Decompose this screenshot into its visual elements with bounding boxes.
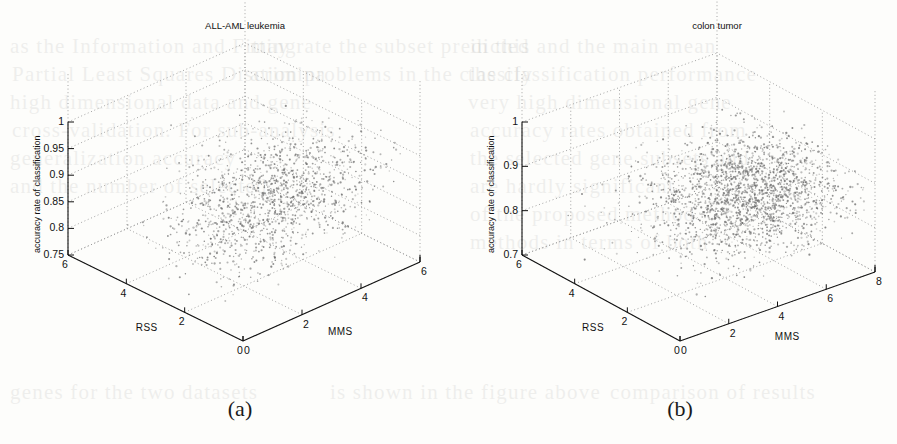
- x-tick-label: 2: [621, 315, 627, 327]
- y-tick-label: 6: [827, 292, 833, 304]
- y-tick-label: 4: [779, 310, 785, 322]
- plot-b-z-axis-label: accuracy rate of classification: [486, 135, 496, 253]
- z-tick-label: 0.9: [503, 159, 518, 171]
- data-points: [567, 109, 865, 298]
- z-tick-label: 0.7: [503, 248, 518, 260]
- z-tick-label: 0.85: [44, 195, 64, 207]
- panel-b-colon-tumor: colon tumor accuracy rate of classificat…: [448, 0, 897, 444]
- panel-a-caption: (a): [228, 396, 252, 422]
- y-tick-label: 6: [421, 265, 427, 277]
- panel-a-all-aml-leukemia: ALL-AML leukemia accuracy rate of classi…: [0, 0, 449, 444]
- y-tick-label: 4: [362, 291, 368, 303]
- panel-b-caption: (b): [667, 396, 693, 422]
- x-tick-label: 0: [674, 344, 680, 356]
- x-tick-label: 4: [569, 287, 575, 299]
- plot-a-y-axis-label: MMS: [328, 326, 353, 337]
- z-tick-label: 0.9: [49, 168, 64, 180]
- axis-lines: [522, 122, 875, 341]
- z-tick-label: 0.8: [49, 221, 64, 233]
- z-tick-label: 0.95: [44, 142, 64, 154]
- plot-b-y-axis-label: MMS: [775, 331, 800, 342]
- z-tick-label: 1: [512, 115, 518, 127]
- z-tick-label: 1: [58, 115, 64, 127]
- plot-a-title: ALL-AML leukemia: [205, 20, 285, 31]
- x-tick-label: 0: [237, 344, 243, 356]
- x-tick-label: 2: [179, 315, 185, 327]
- y-tick-label: 0: [244, 344, 250, 356]
- plot-b-canvas: [448, 0, 897, 444]
- x-tick-label: 4: [120, 287, 126, 299]
- y-tick-label: 0: [681, 344, 687, 356]
- plot-b-x-axis-label: RSS: [582, 322, 604, 333]
- plot-a-z-axis-label: accuracy rate of classification: [32, 135, 42, 253]
- z-tick-label: 0.75: [44, 248, 64, 260]
- figure-3d-scatter-pair: as the Information and Fittingmay rate t…: [0, 0, 897, 444]
- y-tick-label: 8: [876, 275, 882, 287]
- y-tick-label: 2: [303, 318, 309, 330]
- z-tick-label: 0.8: [503, 204, 518, 216]
- plot-b-title: colon tumor: [692, 20, 742, 31]
- plot-a-x-axis-label: RSS: [136, 322, 158, 333]
- data-points: [127, 101, 401, 302]
- y-tick-label: 2: [730, 327, 736, 339]
- plot-a-canvas: [0, 0, 449, 444]
